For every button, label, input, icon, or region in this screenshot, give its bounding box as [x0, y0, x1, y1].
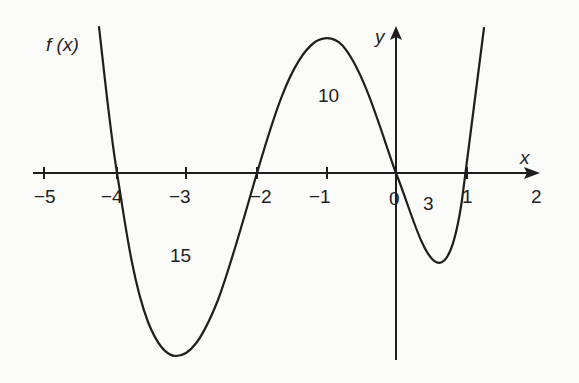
- x-tick-label-neg5: −5: [34, 186, 56, 207]
- x-tick-label-0: 0: [389, 188, 400, 209]
- x-tick-label-neg2: −2: [250, 186, 272, 207]
- x-tick-label-neg1: −1: [309, 186, 331, 207]
- area-label-15: 15: [170, 245, 191, 266]
- area-label-3: 3: [423, 193, 434, 214]
- x-tick-label-neg4: −4: [101, 186, 123, 207]
- area-label-10: 10: [318, 85, 339, 106]
- chart-figure: −5 −4 −3 −2 −1 0 1 2 f (x) y x 15 10 3: [0, 0, 579, 383]
- fx-label: f (x): [46, 34, 79, 55]
- x-axis-label: x: [519, 147, 531, 168]
- y-axis-label: y: [373, 26, 386, 47]
- function-curve: [99, 27, 484, 356]
- x-tick-label-1: 1: [462, 186, 473, 207]
- x-tick-label-2: 2: [531, 186, 542, 207]
- plot-area: −5 −4 −3 −2 −1 0 1 2 f (x) y x 15 10 3: [0, 0, 579, 383]
- x-tick-label-neg3: −3: [169, 186, 191, 207]
